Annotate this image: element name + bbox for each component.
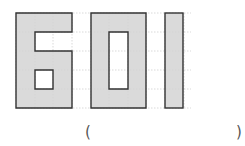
answer-open-paren: (	[85, 125, 91, 140]
answer-close-paren: )	[236, 125, 242, 140]
digit-one-shape	[165, 13, 183, 108]
digit-zero-shape	[91, 13, 146, 108]
answer-blank[interactable]	[100, 125, 230, 141]
digit-six-shape	[16, 13, 72, 108]
